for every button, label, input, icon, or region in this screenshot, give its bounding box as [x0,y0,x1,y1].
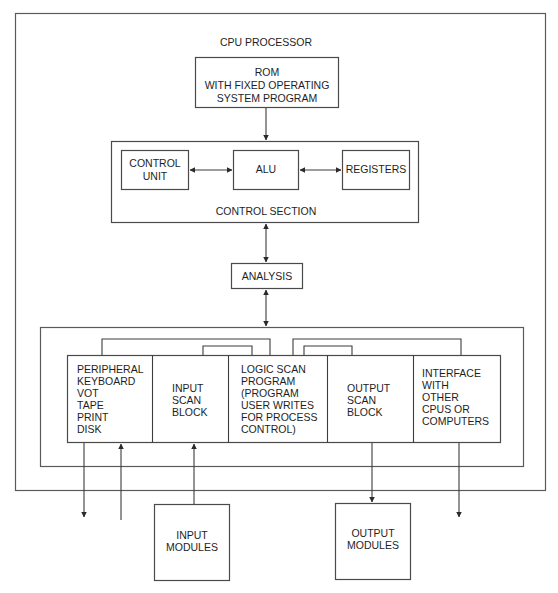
svg-text:CONTROL): CONTROL) [241,423,296,435]
svg-text:LOGIC SCAN: LOGIC SCAN [241,363,306,375]
svg-text:FOR PROCESS: FOR PROCESS [241,411,317,423]
scan-blocks-row: PERIPHERAL KEYBOARD VOT TAPE PRINT DISK … [68,356,501,443]
svg-text:PROGRAM: PROGRAM [241,375,295,387]
svg-text:INPUT: INPUT [176,529,208,541]
svg-text:USER WRITES: USER WRITES [241,399,314,411]
svg-text:BLOCK: BLOCK [172,406,208,418]
bracket-logic-interface [293,339,461,355]
svg-text:INPUT: INPUT [172,382,204,394]
svg-text:WITH: WITH [422,379,449,391]
control-section: CONTROL UNIT ALU REGISTERS CONTROL SECTI… [112,142,419,223]
rom-label: ROM [255,66,280,78]
svg-text:TAPE: TAPE [77,399,104,411]
input-modules-block: INPUT MODULES [155,505,230,581]
control-unit-label: UNIT [143,170,168,182]
bracket-peripheral-logic [102,339,270,355]
analysis-block: ANALYSIS [232,264,303,289]
svg-text:(PROGRAM: (PROGRAM [241,387,299,399]
svg-text:VOT: VOT [77,387,99,399]
control-section-label: CONTROL SECTION [216,205,317,217]
cpu-processor-title: CPU PROCESSOR [220,36,313,48]
registers-label: REGISTERS [346,163,407,175]
svg-text:PERIPHERAL: PERIPHERAL [77,363,144,375]
rom-block: ROM WITH FIXED OPERATING SYSTEM PROGRAM [196,58,339,108]
bracket-input-logic [203,346,252,355]
rom-label: WITH FIXED OPERATING [205,79,330,91]
svg-text:MODULES: MODULES [347,539,399,551]
svg-text:OTHER: OTHER [422,391,459,403]
plc-cpu-diagram: CPU PROCESSOR ROM WITH FIXED OPERATING S… [0,0,558,593]
svg-text:MODULES: MODULES [166,541,218,553]
alu-label: ALU [256,163,276,175]
svg-text:BLOCK: BLOCK [347,406,383,418]
bracket-logic-output [304,346,352,355]
svg-text:SCAN: SCAN [347,394,376,406]
svg-text:DISK: DISK [77,423,102,435]
svg-text:PRINT: PRINT [77,411,109,423]
svg-text:INTERFACE: INTERFACE [422,367,481,379]
svg-text:SCAN: SCAN [172,394,201,406]
svg-text:COMPUTERS: COMPUTERS [422,415,489,427]
output-modules-block: OUTPUT MODULES [336,504,411,580]
svg-text:OUTPUT: OUTPUT [347,382,391,394]
svg-text:KEYBOARD: KEYBOARD [77,375,136,387]
svg-text:OUTPUT: OUTPUT [351,527,395,539]
analysis-label: ANALYSIS [242,270,293,282]
control-unit-label: CONTROL [129,157,180,169]
svg-text:CPUS OR: CPUS OR [422,403,470,415]
rom-label: SYSTEM PROGRAM [217,92,317,104]
